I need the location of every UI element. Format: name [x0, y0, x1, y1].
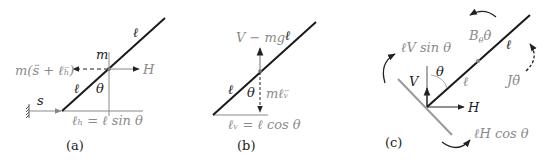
panel-b: V − mg ℓ ℓ θ mℓ̈ᵥ ℓᵥ = ℓ cos θ (b)	[213, 22, 316, 153]
horizontal-projection-label: ℓₕ = ℓ sin θ	[72, 113, 143, 128]
panel-b-caption: (b)	[237, 138, 255, 153]
mass-point	[258, 69, 262, 73]
inertia-moment-label: Jθ̈	[504, 73, 520, 88]
moment-h-label: ℓH cos θ	[474, 126, 529, 141]
moment-v-label: ℓV sin θ	[401, 40, 451, 55]
mass-label: m	[96, 47, 108, 62]
inertia-moment-arrow-icon	[526, 44, 534, 71]
angle-label: θ	[247, 85, 255, 100]
rod-midpoint	[476, 59, 480, 63]
free-body-diagram: ℓ m m(s̈ + ℓ̈ₕ) H ℓ θ s ℓₕ = ℓ sin θ (a)…	[0, 0, 551, 163]
angle-label: θ	[96, 81, 104, 96]
inertial-force-label: m(s̈ + ℓ̈ₕ)	[15, 63, 74, 78]
rod-top-label: ℓ	[133, 25, 139, 40]
horizontal-force-label: H	[142, 62, 155, 77]
rod-bottom-label: ℓ	[74, 81, 80, 96]
moment-v-arrow-icon	[383, 54, 395, 83]
rod-top-label: ℓ	[506, 37, 512, 52]
panel-c: ℓV sin θ Bθθ̇ ℓ Jθ̈ θ V ℓ H ℓH cos θ (c)	[383, 11, 534, 150]
panel-c-caption: (c)	[385, 135, 402, 150]
displacement-label: s	[37, 93, 44, 108]
rod-bottom-label: ℓ	[228, 82, 234, 97]
damping-label: Bθθ̇	[468, 28, 491, 45]
panel-a-caption: (a)	[66, 138, 84, 153]
vertical-force-label: V − mg	[236, 30, 285, 45]
ground-hatch-icon	[26, 104, 29, 118]
damping-moment-arrow-icon	[470, 11, 496, 17]
horizontal-force-label: H	[467, 100, 480, 115]
rod-top-label: ℓ	[285, 28, 291, 43]
angle-label: θ	[436, 64, 444, 79]
rod-bottom-label: ℓ	[463, 74, 469, 89]
vertical-force-label: V	[409, 74, 420, 89]
moment-h-arrow-icon	[442, 140, 470, 148]
panel-a: ℓ m m(s̈ + ℓ̈ₕ) H ℓ θ s ℓₕ = ℓ sin θ (a)	[15, 18, 165, 153]
inertial-force-label: mℓ̈ᵥ	[266, 86, 289, 101]
vertical-projection-label: ℓᵥ = ℓ cos θ	[228, 117, 301, 132]
